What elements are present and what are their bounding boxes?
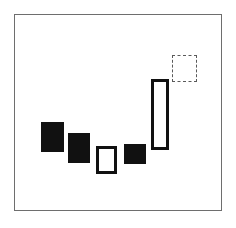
bar-5-outlined-tall <box>151 79 169 150</box>
bar-2-filled <box>68 133 90 163</box>
bar-1-filled <box>41 122 64 152</box>
bar-3-outlined <box>96 146 117 174</box>
plot-frame <box>14 14 222 211</box>
figure-canvas <box>0 0 236 228</box>
bar-4-filled <box>124 144 146 164</box>
bar-6-dashed-placeholder <box>172 55 197 82</box>
